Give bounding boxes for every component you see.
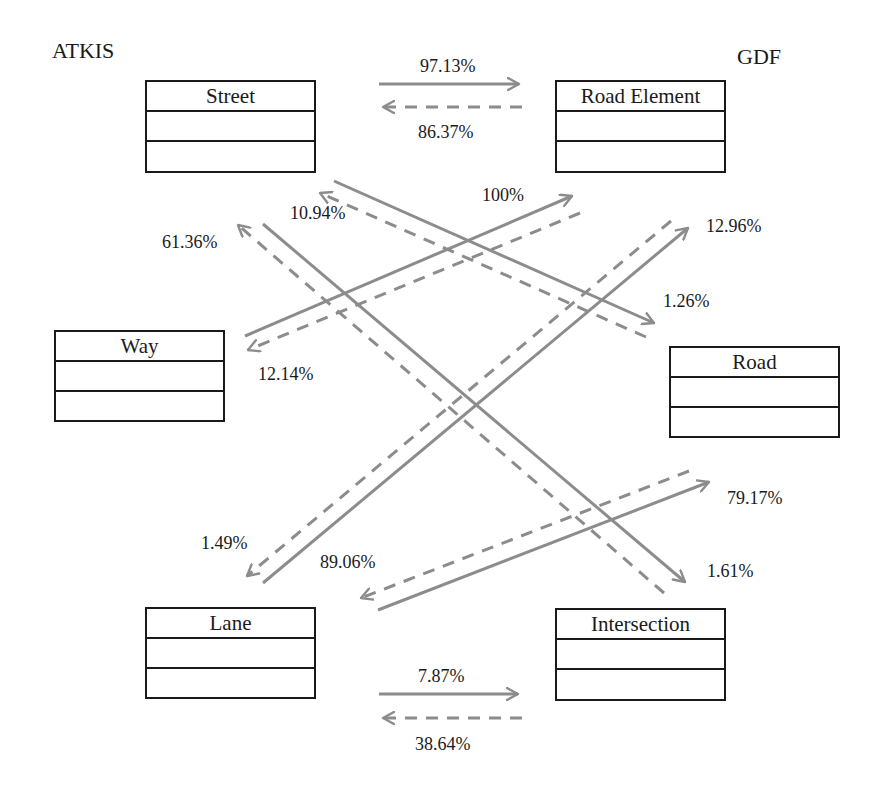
pct-road-element-to-street: 86.37%: [418, 122, 474, 143]
class-attributes: [147, 112, 314, 142]
class-name-road-element: Road Element: [557, 82, 724, 112]
pct-lane-to-road-element: 12.96%: [706, 216, 762, 237]
class-name-street: Street: [147, 82, 314, 112]
class-box-lane: Lane: [145, 607, 316, 699]
class-operations: [147, 669, 314, 699]
class-name-intersection: Intersection: [557, 610, 724, 640]
class-operations: [56, 392, 223, 422]
class-box-intersection: Intersection: [555, 608, 726, 701]
class-name-road: Road: [671, 348, 838, 378]
class-box-road: Road: [669, 346, 840, 438]
pct-street-to-intersection: 1.61%: [707, 561, 754, 582]
class-attributes: [147, 639, 314, 669]
pct-road-element-to-way: 12.14%: [258, 364, 314, 385]
class-box-street: Street: [145, 80, 316, 173]
class-attributes: [56, 362, 223, 392]
pct-lane-to-road: 79.17%: [727, 488, 783, 509]
class-attributes: [557, 112, 724, 142]
pct-road-to-lane: 89.06%: [320, 552, 376, 573]
class-operations: [147, 142, 314, 172]
class-attributes: [557, 640, 724, 670]
class-operations: [557, 142, 724, 172]
class-attributes: [671, 378, 838, 408]
arrow-road-to-lane: [361, 471, 689, 598]
pct-intersection-to-lane: 38.64%: [415, 734, 471, 755]
pct-intersection-to-street: 61.36%: [162, 232, 218, 253]
class-name-way: Way: [56, 332, 223, 362]
pct-street-to-road: 1.26%: [663, 291, 710, 312]
class-operations: [671, 408, 838, 438]
class-operations: [557, 670, 724, 700]
class-name-lane: Lane: [147, 609, 314, 639]
pct-street-to-road-element: 97.13%: [420, 56, 476, 77]
pct-lane-to-intersection: 7.87%: [418, 666, 465, 687]
pct-road-element-to-lane: 1.49%: [201, 533, 248, 554]
class-box-way: Way: [54, 330, 225, 422]
class-box-road-element: Road Element: [555, 80, 726, 173]
pct-way-to-road-element: 100%: [482, 185, 524, 206]
pct-road-to-street: 10.94%: [290, 203, 346, 224]
